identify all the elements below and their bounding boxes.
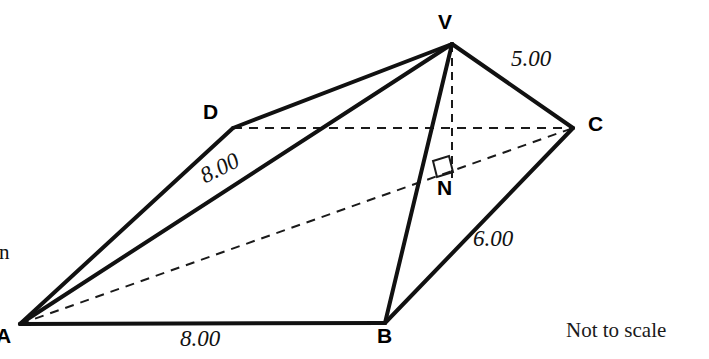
measure-bc: 6.00 — [473, 226, 513, 252]
vertex-label-b: B — [377, 324, 392, 348]
prose-line-2: entre — [0, 154, 104, 182]
not-to-scale-note: Not to scale — [566, 318, 666, 343]
prose-line-4: tres. — [0, 322, 104, 350]
measure-ab: 8.00 — [180, 326, 220, 352]
prose-line-1: . — [0, 70, 104, 98]
vertex-label-n: N — [437, 176, 452, 200]
vertex-label-d: D — [203, 100, 218, 124]
pyramid-diagram — [0, 0, 709, 359]
vertex-label-a: A — [0, 324, 11, 348]
vertex-label-c: C — [588, 112, 603, 136]
geometry-figure: . entre ents in tres. V D C A B N 8.00 8… — [0, 0, 709, 359]
vertex-label-v: V — [438, 10, 452, 34]
prose-line-3: ents in — [0, 238, 104, 266]
measure-vc: 5.00 — [511, 46, 551, 72]
question-prose: . entre ents in tres. — [0, 14, 104, 359]
